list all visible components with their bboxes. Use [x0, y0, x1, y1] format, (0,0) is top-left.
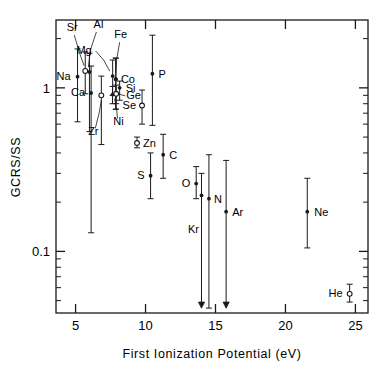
- y-tick-label: 0.1: [32, 244, 50, 259]
- point-label-n: N: [214, 193, 222, 205]
- x-tick-label: 20: [278, 318, 292, 333]
- point-label-s: S: [137, 169, 144, 181]
- data-point-p: [149, 35, 155, 125]
- x-tick-label: 25: [348, 318, 362, 333]
- data-points-layer: [75, 35, 353, 308]
- label-leader-line: [96, 51, 110, 71]
- data-point-zn: [134, 137, 140, 148]
- point-label-he: He: [329, 287, 343, 299]
- y-axis-ticks: 10.1: [32, 39, 368, 301]
- data-point-c: [160, 134, 166, 178]
- marker-filled: [194, 182, 198, 186]
- label-leader-line: [95, 100, 101, 128]
- marker-open: [135, 141, 140, 146]
- x-axis-title: First Ionization Potential (eV): [122, 347, 301, 361]
- marker-filled: [89, 91, 93, 95]
- marker-filled: [118, 86, 122, 90]
- point-label-zr: Zr: [88, 125, 99, 137]
- marker-filled: [200, 193, 204, 197]
- data-point-o: [193, 167, 199, 199]
- marker-open: [99, 93, 104, 98]
- data-point-kr: [198, 173, 204, 308]
- marker-filled: [207, 197, 211, 201]
- data-point-ne: [304, 178, 310, 248]
- marker-filled: [114, 77, 118, 81]
- y-tick-label: 1: [43, 81, 50, 96]
- upper-limit-arrow: [198, 302, 204, 308]
- point-label-na: Na: [56, 70, 71, 82]
- marker-open: [140, 103, 145, 108]
- point-label-ar: Ar: [232, 206, 243, 218]
- point-label-sr: Sr: [67, 21, 78, 33]
- marker-filled: [305, 210, 309, 214]
- marker-filled: [149, 174, 153, 178]
- point-label-zn: Zn: [143, 137, 156, 149]
- x-tick-label: 15: [208, 318, 222, 333]
- point-labels-layer: NaSrAlCaMgZrFeCoSiNiGeSeZnPCSONKrArNeHe: [56, 18, 342, 299]
- marker-filled: [111, 74, 115, 78]
- marker-open: [83, 68, 88, 73]
- point-label-al: Al: [94, 18, 104, 30]
- point-label-se: Se: [123, 99, 136, 111]
- point-label-ni: Ni: [113, 115, 123, 127]
- chart-figure: 10.1 510152025 NaSrAlCaMgZrFeCoSiNiGeSeZ…: [0, 0, 389, 370]
- scatter-plot: 10.1 510152025 NaSrAlCaMgZrFeCoSiNiGeSeZ…: [0, 0, 389, 370]
- y-axis-title: GCRS/SS: [9, 137, 23, 197]
- x-tick-label: 5: [72, 318, 79, 333]
- data-point-n: [206, 155, 212, 308]
- marker-open: [347, 291, 352, 296]
- data-point-s: [148, 153, 154, 199]
- point-label-p: P: [158, 68, 165, 80]
- data-point-he: [347, 284, 353, 302]
- marker-filled: [150, 72, 154, 76]
- point-label-ca: Ca: [71, 86, 86, 98]
- point-label-ne: Ne: [314, 206, 328, 218]
- marker-filled: [161, 153, 165, 157]
- point-label-kr: Kr: [188, 223, 199, 235]
- upper-limit-arrow: [223, 302, 229, 308]
- plot-border: [56, 20, 368, 313]
- point-label-mg: Mg: [76, 44, 91, 56]
- marker-filled: [224, 210, 228, 214]
- marker-filled: [76, 75, 80, 79]
- point-label-fe: Fe: [114, 28, 127, 40]
- axes-frame: [56, 20, 368, 313]
- point-label-o: O: [182, 177, 191, 189]
- point-label-c: C: [169, 149, 177, 161]
- data-point-ar: [223, 160, 229, 308]
- x-tick-label: 10: [138, 318, 152, 333]
- marker-open: [114, 91, 119, 96]
